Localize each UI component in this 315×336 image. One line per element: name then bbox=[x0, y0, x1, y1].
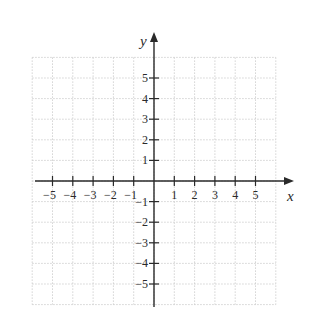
x-tick-label: 2 bbox=[192, 188, 198, 202]
y-tick-label: −2 bbox=[135, 215, 148, 229]
x-tick-label: 5 bbox=[253, 188, 259, 202]
y-tick-label: 4 bbox=[142, 92, 148, 106]
coordinate-plane: −5−4−3−2−112345−5−4−3−2−112345 x y bbox=[0, 0, 315, 336]
x-tick-label: 3 bbox=[212, 188, 218, 202]
x-tick-label: 1 bbox=[171, 188, 177, 202]
y-tick-label: −3 bbox=[135, 236, 148, 250]
x-tick-label: −2 bbox=[104, 188, 117, 202]
y-axis-arrow-icon bbox=[150, 32, 158, 42]
y-tick-label: −5 bbox=[135, 277, 148, 291]
x-tick-label: −4 bbox=[63, 188, 76, 202]
y-tick-label: 5 bbox=[142, 71, 148, 85]
y-tick-label: −1 bbox=[135, 195, 148, 209]
x-axis-arrow-icon bbox=[284, 177, 294, 185]
x-axis-label: x bbox=[286, 188, 294, 204]
y-tick-label: 1 bbox=[142, 153, 148, 167]
x-tick-label: −5 bbox=[43, 188, 56, 202]
y-axis-label: y bbox=[138, 33, 147, 49]
y-tick-label: 3 bbox=[142, 112, 148, 126]
y-tick-label: 2 bbox=[142, 133, 148, 147]
y-tick-label: −4 bbox=[135, 256, 148, 270]
x-tick-label: 4 bbox=[232, 188, 238, 202]
x-tick-label: −3 bbox=[84, 188, 97, 202]
